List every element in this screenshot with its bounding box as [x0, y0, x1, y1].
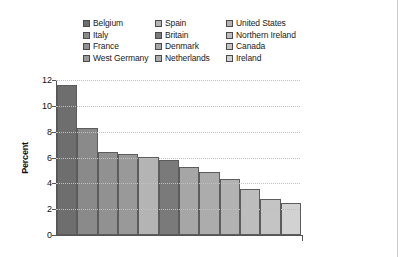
y-axis-tick-label: 10 [30, 101, 52, 111]
y-axis-tick-label: 8 [30, 127, 52, 137]
bar [220, 179, 240, 235]
bar [240, 189, 260, 236]
gridline [56, 183, 300, 184]
y-axis-tick-mark [52, 235, 56, 236]
bar [179, 167, 199, 235]
y-axis-tick-label: 4 [30, 178, 52, 188]
bar [281, 203, 301, 235]
bar [199, 172, 219, 235]
y-axis-ticks: 024681012 [27, 74, 52, 242]
gridline [56, 209, 300, 210]
bar [77, 128, 97, 235]
bar [260, 199, 280, 235]
y-axis-tick-label: 6 [30, 153, 52, 163]
y-axis-tick-label: 2 [30, 204, 52, 214]
y-axis-tick-label: 0 [30, 230, 52, 240]
y-axis-tick-label: 12 [30, 75, 52, 85]
gridline [56, 80, 300, 81]
bar [57, 85, 77, 235]
bar [138, 157, 158, 235]
gridline [56, 158, 300, 159]
bar [118, 154, 138, 235]
x-axis-line [56, 235, 303, 236]
bar-chart-figure: BelgiumSpainUnited StatesItalyBritainNor… [0, 0, 415, 257]
x-axis-end-tick [302, 235, 303, 241]
plot-area: Percent 024681012 [0, 0, 415, 257]
gridline [56, 106, 300, 107]
bar [159, 160, 179, 235]
bar [98, 152, 118, 235]
gridline [56, 132, 300, 133]
